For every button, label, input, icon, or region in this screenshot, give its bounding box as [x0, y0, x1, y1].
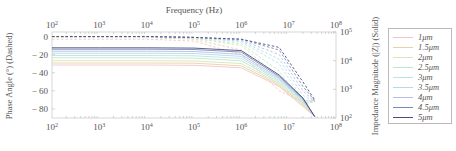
x-tick-label-bottom: 105 [188, 122, 200, 132]
phase-curve-1 [52, 37, 315, 102]
x-tick-label-top: 106 [235, 20, 247, 30]
top-x-axis-label: Frequency (Hz) [166, 5, 223, 15]
x-tick-label-bottom: 107 [283, 122, 295, 132]
x-tick-label-top: 105 [188, 20, 200, 30]
legend-label: 1μm [418, 32, 433, 42]
legend-label: 2.5μm [418, 62, 439, 72]
legend-swatch [393, 37, 413, 38]
legend-label: 2μm [418, 52, 433, 62]
right-y-axis-label: Impedance Magnitude (|Z|) (Solid) [370, 17, 380, 136]
legend: 1μm1.5μm2μm2.5μm3μm3.5μm4μm4.5μm5μm [388, 28, 452, 124]
phase-curve-5 [52, 37, 315, 102]
left-y-tick-label: − 20 [32, 50, 49, 60]
magnitude-curve-1 [52, 63, 315, 117]
phase-curve-3 [52, 37, 315, 104]
legend-swatch [393, 97, 413, 98]
magnitude-curve-3 [52, 58, 315, 117]
legend-label: 4.5μm [418, 102, 439, 112]
legend-label: 3.5μm [418, 82, 439, 92]
legend-item: 1.5μm [393, 42, 451, 52]
x-tick-label-top: 107 [283, 20, 295, 30]
right-y-tick-label: 104 [340, 56, 352, 66]
legend-item: 5μm [393, 112, 451, 122]
x-tick-label-bottom: 104 [141, 122, 153, 132]
legend-label: 3μm [418, 72, 433, 82]
right-y-tick-label: 103 [340, 84, 352, 94]
x-tick-label-bottom: 103 [93, 122, 105, 132]
x-tick-label-top: 102 [46, 20, 58, 30]
phase-curve-6 [52, 37, 315, 102]
left-y-tick-label: − 60 [32, 86, 49, 96]
curves [52, 37, 315, 117]
legend-swatch [393, 77, 413, 78]
x-tick-label-top: 103 [93, 20, 105, 30]
legend-swatch [393, 117, 413, 118]
legend-swatch [393, 57, 413, 58]
legend-item: 2.5μm [393, 62, 451, 72]
legend-swatch [393, 67, 413, 68]
phase-curve-0 [52, 39, 315, 101]
left-y-tick-label: 0 [44, 32, 49, 42]
plot-frame [52, 32, 336, 118]
legend-swatch [393, 107, 413, 108]
left-y-tick-label: − 80 [32, 104, 49, 114]
legend-label: 5μm [418, 112, 433, 122]
legend-item: 4.5μm [393, 102, 451, 112]
legend-item: 4μm [393, 92, 451, 102]
legend-item: 2μm [393, 52, 451, 62]
legend-label: 4μm [418, 92, 433, 102]
left-y-axis-label: Phase Angle (°) (Dashed) [4, 32, 14, 119]
right-y-tick-label: 105 [340, 27, 352, 37]
x-tick-label-bottom: 108 [330, 122, 342, 132]
legend-swatch [393, 47, 413, 48]
legend-label: 1.5μm [418, 42, 439, 52]
legend-item: 3μm [393, 72, 451, 82]
legend-swatch [393, 87, 413, 88]
right-y-tick-label: 102 [340, 113, 352, 123]
x-tick-label-top: 104 [141, 20, 153, 30]
left-y-tick-label: − 40 [32, 68, 49, 78]
legend-item: 1μm [393, 32, 451, 42]
magnitude-curve-2 [52, 61, 315, 117]
legend-item: 3.5μm [393, 82, 451, 92]
x-tick-label-bottom: 102 [46, 122, 58, 132]
phase-curve-4 [52, 37, 315, 102]
x-tick-label-bottom: 106 [235, 122, 247, 132]
